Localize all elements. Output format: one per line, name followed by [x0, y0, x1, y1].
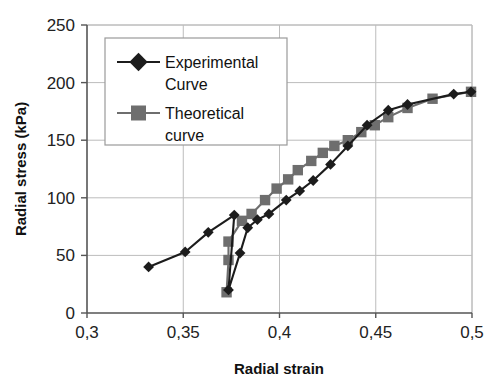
data-point-square	[293, 165, 303, 175]
data-point-square	[318, 148, 328, 158]
y-tick-label: 0	[66, 304, 75, 323]
y-tick-label: 100	[47, 189, 75, 208]
y-tick-label: 200	[47, 74, 75, 93]
legend-label-theoretical-line1: Theoretical	[165, 105, 244, 122]
legend-label-theoretical-line2: curve	[165, 127, 204, 144]
data-point-square	[283, 174, 293, 184]
x-tick-label: 0,35	[167, 323, 200, 342]
y-tick-label: 50	[56, 246, 75, 265]
chart-legend: Experimental Curve Theoretical curve	[105, 38, 287, 145]
x-tick-label: 0,4	[268, 323, 292, 342]
y-tick-label: 150	[47, 131, 75, 150]
data-point-square	[271, 183, 281, 193]
chart-container: 0,30,350,40,450,5 050100150200250 Radial…	[0, 0, 499, 385]
radial-stress-strain-chart: 0,30,350,40,450,5 050100150200250 Radial…	[0, 0, 499, 385]
x-tick-label: 0,45	[359, 323, 392, 342]
data-point-square	[260, 195, 270, 205]
y-tick-label: 250	[47, 16, 75, 35]
data-point-square	[329, 141, 339, 151]
legend-label-experimental-line1: Experimental	[165, 54, 258, 71]
x-tick-label: 0,3	[75, 323, 99, 342]
square-icon	[131, 106, 146, 121]
data-point-square	[237, 216, 247, 226]
x-tick-label: 0,5	[460, 323, 484, 342]
legend-label-experimental-line2: Curve	[165, 76, 208, 93]
x-axis-title: Radial strain	[234, 360, 324, 377]
y-axis-title: Radial stress (kPa)	[12, 102, 29, 236]
data-point-square	[306, 156, 316, 166]
